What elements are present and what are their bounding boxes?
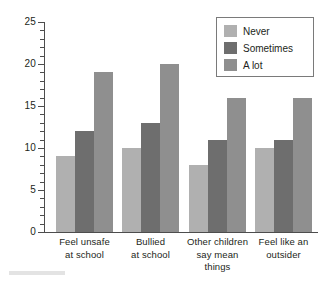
y-axis-tick-label: 20 [0,59,36,69]
legend-item-never: Never [224,23,307,39]
bar [293,98,312,232]
x-axis-category-label-line: Feel like an [244,236,324,249]
bar [141,123,160,232]
bar-group [56,22,113,232]
x-axis-category-label-line: outsider [244,249,324,262]
legend-label-a-lot: A lot [243,60,262,71]
bar-group-bars [122,22,179,232]
bar [56,156,75,232]
x-axis-line [44,232,318,233]
y-axis-tick-label: 0 [0,227,36,237]
bar-group-bars [56,22,113,232]
bar-chart-figure: 0510152025 Feel unsafeat schoolBulliedat… [0,0,328,290]
bar [94,72,113,232]
bar [75,131,94,232]
legend-item-sometimes: Sometimes [224,40,307,56]
y-axis-tick-label: 15 [0,101,36,111]
bar [255,148,274,232]
bar [122,148,141,232]
bar [189,165,208,232]
legend-label-sometimes: Sometimes [243,43,293,54]
chart-legend: Never Sometimes A lot [216,17,314,77]
y-axis-tick-label: 5 [0,185,36,195]
x-axis-category-label: Feel like anoutsider [244,236,324,261]
bar [227,98,246,232]
footer-rule [9,271,65,275]
legend-swatch-a-lot [224,59,237,71]
y-axis-tick-label: 10 [0,143,36,153]
legend-item-a-lot: A lot [224,57,307,73]
bar [274,140,293,232]
legend-swatch-sometimes [224,42,237,54]
bar [208,140,227,232]
legend-label-never: Never [243,26,270,37]
x-axis-category-label-line: things [178,261,258,274]
y-axis-tick-major [38,232,44,233]
legend-swatch-never [224,25,237,37]
y-axis-tick-label: 25 [0,17,36,27]
bar-group [122,22,179,232]
bar [160,64,179,232]
